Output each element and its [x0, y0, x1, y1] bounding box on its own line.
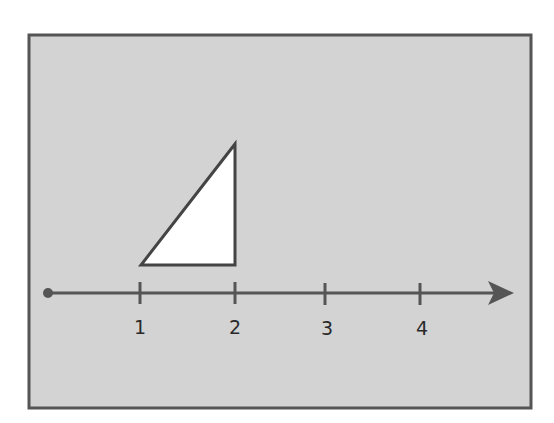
tick-label-2: 2	[229, 316, 241, 338]
diagram-canvas: 1 2 3 4	[0, 0, 554, 423]
tick-label-4: 4	[416, 317, 428, 339]
panel-background	[29, 35, 531, 408]
tick-label-3: 3	[321, 317, 333, 339]
tick-label-1: 1	[134, 316, 146, 338]
start-dot-icon	[43, 288, 53, 298]
